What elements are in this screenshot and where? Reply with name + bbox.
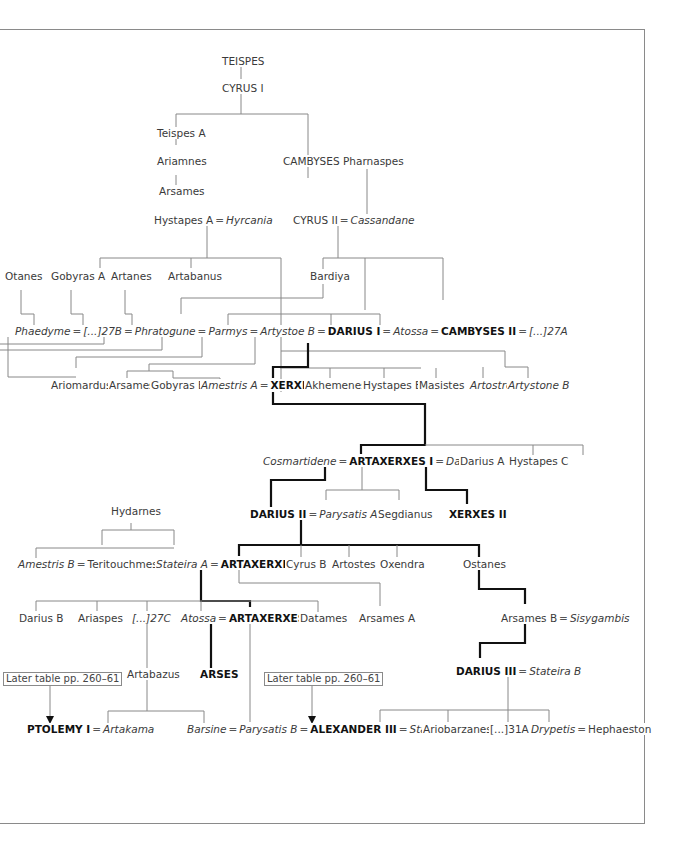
node-hydarnes: Hydarnes [110, 505, 162, 517]
node-artostes: Artostes [331, 558, 377, 570]
node-arses: ARSES [199, 668, 240, 680]
node-xerxes-ii: XERXES II [448, 508, 508, 520]
node-arsames-a: Arsames A [358, 612, 416, 624]
king-arses: ARSES [200, 668, 239, 680]
node-arsames: Arsames [158, 185, 206, 197]
node-cyrus-i: CYRUS I [221, 82, 265, 94]
node-darius-a: Darius A [459, 455, 505, 467]
node-teispes: TEISPES [221, 55, 265, 67]
node-ostanes: Ostanes [462, 558, 507, 570]
reference-later-table-2[interactable]: Later table pp. 260–61 [264, 672, 383, 686]
node-teispes-a: Teispes A [156, 127, 207, 139]
node-darius-iii: DARIUS III=Stateira B [455, 665, 582, 677]
king-alexander-iii: ALEXANDER III [310, 723, 396, 735]
node-arsames-2: Arsames [108, 379, 156, 391]
node-darius-ii: DARIUS II=Parysatis A [249, 508, 378, 520]
node-segdianus: Segdianus [377, 508, 434, 520]
reference-later-table-1[interactable]: Later table pp. 260–61 [3, 672, 122, 686]
node-datames: Datames [299, 612, 348, 624]
node-cyrus-ii: CYRUS II=Cassandane [292, 214, 416, 226]
node-ariomardus: Ariomardus [50, 379, 112, 391]
node-bardiya: Bardiya [309, 270, 351, 282]
king-darius-i: DARIUS I [328, 325, 381, 337]
king-xerxes-ii: XERXES II [449, 508, 507, 520]
node-masistes: Masistes [418, 379, 465, 391]
node-amestris-b: Amestris B=Teritouchmes [17, 558, 159, 570]
node-ariaspes: Ariaspes [77, 612, 124, 624]
node-otanes: Otanes [4, 270, 43, 282]
node-cambyses-i: CAMBYSES I [282, 155, 347, 167]
king-cambyses-ii: CAMBYSES II [441, 325, 516, 337]
node-pharnaspes: Pharnaspes [342, 155, 405, 167]
node-oxendra: Oxendra [379, 558, 426, 570]
node-darius-b: Darius B [18, 612, 64, 624]
node-artabazus: Artabazus [126, 668, 181, 680]
node-darius-i-marriages: Phaedyme=[...]27B=Phratogune=Parmys=Arty… [14, 325, 569, 337]
node-arsames-b: Arsames B=Sisygambis [500, 612, 631, 624]
king-ptolemy-i: PTOLEMY I [27, 723, 90, 735]
king-darius-ii: DARIUS II [250, 508, 306, 520]
node-drypetis: Drypetis=Hephaeston [530, 723, 652, 735]
spouse-hyrcania: Hyrcania [226, 214, 273, 226]
node-hystapes-a: Hystapes A=Hyrcania [153, 214, 274, 226]
node-artabanus: Artabanus [167, 270, 223, 282]
node-gobyras-a: Gobyras A [50, 270, 106, 282]
spouse-cassandane: Cassandane [351, 214, 415, 226]
node-unknown-27c: [...]27C [131, 612, 172, 624]
node-cyrus-b: Cyrus B [285, 558, 328, 570]
node-gobyras-b: Gobyras B [150, 379, 206, 391]
node-ariobarzanes: Ariobarzanes [422, 723, 493, 735]
node-artanes: Artanes [110, 270, 153, 282]
king-artaxerxes-i: ARTAXERXES I [349, 455, 433, 467]
node-artystone-b: Artystone B [507, 379, 571, 391]
node-unknown-31a: [...]31A [489, 723, 530, 735]
node-hystapes-c: Hystapes C [508, 455, 569, 467]
king-darius-iii: DARIUS III [456, 665, 516, 677]
node-ptolemy-i: PTOLEMY I=Artakama [26, 723, 155, 735]
node-akhemenes: Akhemenes [304, 379, 368, 391]
node-ariamnes: Ariamnes [156, 155, 208, 167]
node-hystapes-b: Hystapes B [362, 379, 423, 391]
